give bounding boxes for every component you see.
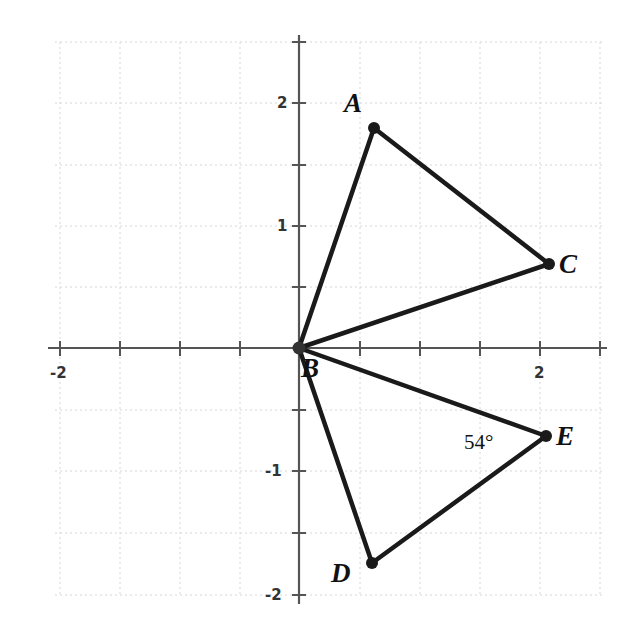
point-c [543,258,555,270]
segment-cb [299,264,549,348]
triangle-abc [299,128,549,348]
grid [55,42,604,596]
x-tick-label-neg2: -2 [50,364,67,382]
point-label-d: D [330,558,351,588]
angle-label-54: 54° [464,430,493,454]
point-label-c: C [559,249,578,279]
y-tick-label-neg2: -2 [265,586,282,604]
point-label-e: E [555,421,574,451]
point-d [366,557,378,569]
segment-ac [374,128,549,264]
triangle-dbe [299,348,546,563]
point-e [540,430,552,442]
y-tick-label-2: 2 [277,94,287,112]
y-tick-label-neg1: -1 [265,462,282,480]
axes [48,35,607,604]
point-label-a: A [342,88,362,118]
segment-ed [372,436,546,563]
x-tick-label-2: 2 [534,364,544,382]
points [293,122,556,569]
point-label-b: B [300,353,319,383]
axis-ticks [60,42,600,595]
coordinate-plane: -2 2 2 1 -1 -2 A B C D E 54° [0,0,627,630]
point-a [368,122,380,134]
y-tick-label-1: 1 [277,217,287,235]
segment-be [299,348,546,436]
segment-ba [299,128,374,348]
